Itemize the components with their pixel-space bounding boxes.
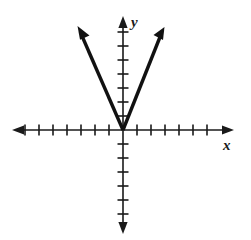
graph-figure: y x <box>0 0 251 240</box>
x-axis-right-arrow-icon <box>222 125 234 134</box>
y-axis-top-arrow-icon <box>118 16 127 28</box>
curve-left-arrow-icon <box>78 26 90 40</box>
y-axis-bottom-arrow-icon <box>118 222 127 234</box>
x-axis-label: x <box>222 137 231 153</box>
curve-left-arm <box>82 36 123 130</box>
curve-right-arm <box>123 37 160 130</box>
coordinate-plane-svg: y x <box>0 0 251 240</box>
absolute-value-curve <box>78 26 165 130</box>
y-axis-label: y <box>129 14 138 30</box>
x-axis-left-arrow-icon <box>12 125 24 134</box>
